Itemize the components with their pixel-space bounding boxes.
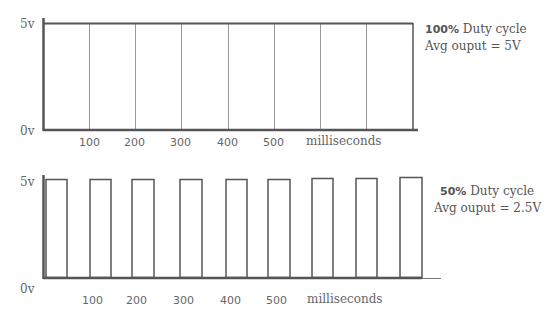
top-x-tick: 200	[124, 136, 145, 149]
top-caption-line2: Avg ouput = 5V	[425, 38, 527, 55]
top-chart: 5v 0v 100 200 300 400 500 milliseconds	[20, 17, 418, 149]
top-duty-pct: 100%	[425, 23, 459, 36]
pulse	[90, 180, 111, 278]
bottom-x-tick: 300	[173, 294, 194, 307]
bottom-y-label-low: 0v	[20, 282, 35, 296]
bottom-pulses	[46, 178, 422, 278]
top-y-label-low: 0v	[20, 124, 35, 138]
pulse	[46, 180, 67, 278]
top-x-unit: milliseconds	[306, 134, 382, 148]
top-x-tick: 100	[79, 136, 100, 149]
top-x-tick: 500	[263, 136, 284, 149]
bottom-caption-line1: 50% Duty cycle	[434, 183, 541, 200]
bottom-x-tick: 500	[266, 294, 287, 307]
bottom-duty-label: Duty cycle	[466, 184, 534, 198]
bottom-x-unit: milliseconds	[307, 292, 383, 306]
top-x-tick: 400	[217, 136, 238, 149]
bottom-x-tick: 400	[220, 294, 241, 307]
pulse	[180, 180, 202, 278]
top-duty-label: Duty cycle	[459, 22, 527, 36]
top-caption-line1: 100% Duty cycle	[425, 21, 527, 38]
bottom-x-tick: 100	[82, 294, 103, 307]
bottom-x-tick: 200	[126, 294, 147, 307]
pulse	[312, 179, 333, 278]
pulse	[400, 178, 422, 278]
top-caption: 100% Duty cycle Avg ouput = 5V	[425, 21, 527, 55]
pulse	[132, 180, 154, 278]
bottom-caption-line2: Avg ouput = 2.5V	[434, 200, 541, 217]
pulse	[226, 180, 247, 278]
pulse	[356, 179, 377, 278]
bottom-caption: 50% Duty cycle Avg ouput = 2.5V	[434, 183, 541, 217]
top-gridlines	[90, 23, 367, 129]
top-x-tick: 300	[170, 136, 191, 149]
top-y-label-high: 5v	[20, 17, 35, 31]
bottom-chart: 5v 0v 100 200 300 400 500 milliseconds	[20, 175, 441, 307]
bottom-y-label-high: 5v	[20, 175, 35, 189]
bottom-duty-pct: 50%	[440, 185, 466, 198]
pulse	[268, 180, 290, 278]
